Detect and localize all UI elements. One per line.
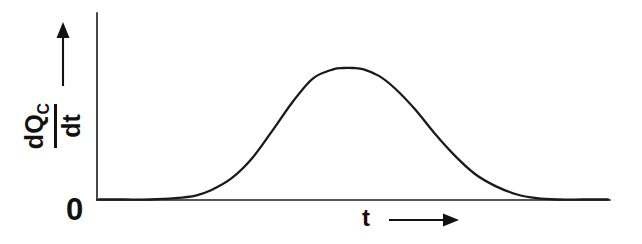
figure-canvas: 0 t dQC dt [0, 0, 642, 244]
x-axis-label: t [362, 206, 370, 230]
data-curve-bell [99, 68, 608, 200]
fraction: dQC dt [15, 91, 91, 161]
fraction-denominator: dt [58, 114, 84, 138]
right-arrow-icon [389, 214, 459, 227]
fraction-numerator: dQC [21, 103, 53, 149]
fraction-numerator-subscript: C [35, 103, 52, 115]
origin-label: 0 [66, 194, 83, 225]
fraction-numerator-main: dQ [20, 114, 48, 149]
up-arrow-icon [57, 22, 70, 86]
plot-area [0, 0, 642, 244]
y-axis-label: dQC dt [15, 91, 91, 161]
